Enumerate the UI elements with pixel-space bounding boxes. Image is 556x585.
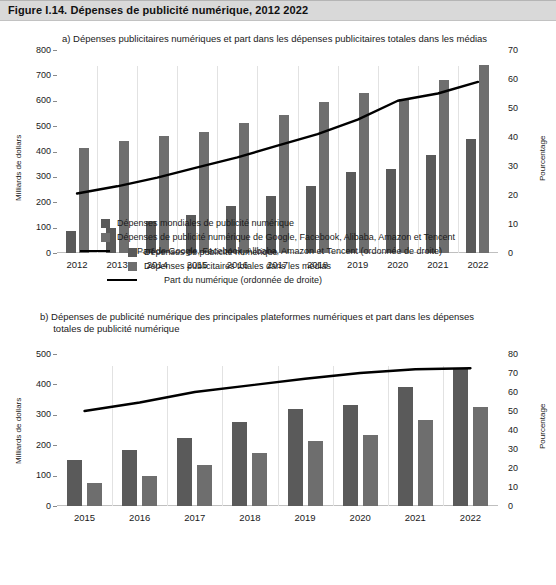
y-axis-tick-label: 600 xyxy=(21,96,51,105)
legend-label: Part du numérique (ordonnée de droite) xyxy=(164,275,322,285)
y-axis-tick-label: 0 xyxy=(21,249,51,258)
y-axis-tick-label: 500 xyxy=(21,350,51,359)
x-axis-tick-label: 2018 xyxy=(222,512,277,523)
figure-title: Figure I.14. Dépenses de publicité numér… xyxy=(8,4,308,16)
legend-line-icon xyxy=(80,250,110,252)
x-axis-tick-label: 2016 xyxy=(112,512,167,523)
y2-axis-tick-label: 0 xyxy=(508,249,538,258)
panel-b: b) Dépenses de publicité numérique des p… xyxy=(0,309,556,585)
y2-axis-tick-label: 50 xyxy=(508,407,538,416)
y2-axis-tick-label: 30 xyxy=(508,162,538,171)
y2-axis-tick-label: 0 xyxy=(508,502,538,511)
x-axis-tick-label: 2020 xyxy=(333,512,388,523)
y-axis-tick-mark xyxy=(53,506,57,507)
y2-axis-tick-label: 10 xyxy=(508,220,538,229)
x-axis-tick-label: 2019 xyxy=(278,512,333,523)
y2-axis-tick-label: 80 xyxy=(508,350,538,359)
legend-line-icon xyxy=(107,279,137,281)
y-axis-tick-label: 700 xyxy=(21,71,51,80)
trend-line xyxy=(77,82,478,194)
panel-b-legend: Dépenses mondiales de publicité numériqu… xyxy=(101,216,455,258)
x-axis-tick-label: 2022 xyxy=(443,512,498,523)
y-axis-tick-label: 100 xyxy=(21,223,51,232)
legend-label: Dépenses mondiales de publicité numériqu… xyxy=(117,218,294,228)
panel-b-subtitle: b) Dépenses de publicité numérique des p… xyxy=(40,311,510,335)
panel-b-plot-area: 0100200300400500010203040506070802015201… xyxy=(57,354,498,506)
trend-line xyxy=(85,368,471,411)
y2-axis-tick-label: 60 xyxy=(508,75,538,84)
legend-item-platform-share: Part de Google, Facebook, Alibaba, Amazo… xyxy=(101,244,455,258)
y-axis-tick-label: 500 xyxy=(21,122,51,131)
legend-label: Part de Google, Facebook, Alibaba, Amazo… xyxy=(137,246,442,256)
y-axis-tick-label: 200 xyxy=(21,198,51,207)
y-axis-tick-label: 400 xyxy=(21,380,51,389)
legend-swatch-icon xyxy=(101,219,110,228)
y-axis-tick-label: 400 xyxy=(21,147,51,156)
y-axis-tick-label: 0 xyxy=(21,502,51,511)
y2-axis-tick-label: 40 xyxy=(508,426,538,435)
x-axis-tick-label: 2022 xyxy=(458,259,498,270)
legend-swatch-icon xyxy=(101,233,110,242)
y-axis-tick-label: 200 xyxy=(21,441,51,450)
x-axis-tick-label: 2020 xyxy=(378,259,418,270)
panel-a-subtitle: a) Dépenses publicitaires numériques et … xyxy=(62,33,522,45)
y2-axis-tick-label: 10 xyxy=(508,483,538,492)
x-axis-tick-label: 2021 xyxy=(418,259,458,270)
panel-b-y-left-title: Milliards de dollars xyxy=(14,398,23,464)
y2-axis-tick-label: 60 xyxy=(508,388,538,397)
legend-item-platform-spend: Dépenses de publicité numérique de Googl… xyxy=(101,230,455,244)
y2-axis-tick-label: 50 xyxy=(508,104,538,113)
panel-a-y-left-title: Milliards de dollars xyxy=(14,135,23,201)
y-axis-tick-label: 800 xyxy=(21,46,51,55)
y2-axis-tick-label: 20 xyxy=(508,464,538,473)
y-axis-tick-label: 300 xyxy=(21,172,51,181)
legend-swatch-icon xyxy=(128,262,137,271)
trend-line-layer xyxy=(57,354,498,506)
y-axis-tick-mark xyxy=(53,253,57,254)
y2-axis-tick-label: 70 xyxy=(508,369,538,378)
y2-axis-tick-label: 70 xyxy=(508,46,538,55)
x-axis-tick-label: 2021 xyxy=(388,512,443,523)
legend-item-digital-share: Part du numérique (ordonnée de droite) xyxy=(128,273,331,287)
x-axis-tick-label: 2019 xyxy=(338,259,378,270)
panel-b-y-right-title: Pourcentage xyxy=(538,404,547,449)
x-axis-tick-label: 2017 xyxy=(167,512,222,523)
legend-item-total-media-spend: Dépenses publicitaires totales dans les … xyxy=(128,259,331,273)
y-axis-tick-label: 300 xyxy=(21,410,51,419)
legend-label: Dépenses publicitaires totales dans les … xyxy=(144,261,331,271)
legend-item-global-digital-spend: Dépenses mondiales de publicité numériqu… xyxy=(101,216,455,230)
y2-axis-tick-label: 30 xyxy=(508,445,538,454)
y2-axis-tick-label: 40 xyxy=(508,133,538,142)
y-axis-tick-label: 100 xyxy=(21,471,51,480)
x-axis-tick-label: 2015 xyxy=(57,512,112,523)
panel-a-y-right-title: Pourcentage xyxy=(538,136,547,181)
legend-label: Dépenses de publicité numérique de Googl… xyxy=(117,232,455,242)
y2-axis-tick-label: 20 xyxy=(508,191,538,200)
x-axis-tick-label: 2012 xyxy=(57,259,97,270)
